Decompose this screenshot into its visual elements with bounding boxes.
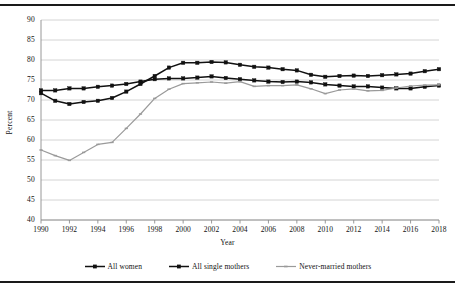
x-axis-title: Year [0, 238, 455, 247]
x-tick-label: 1992 [54, 225, 84, 234]
chart-legend: All womenAll single mothersNever-married… [0, 262, 455, 271]
x-tick-label: 2006 [253, 225, 283, 234]
x-tick-label: 2004 [225, 225, 255, 234]
x-tick-label: 1994 [83, 225, 113, 234]
x-axis-ticks [41, 220, 439, 224]
y-tick-label: 80 [13, 55, 35, 64]
gridlines [41, 20, 439, 220]
x-tick-label: 2008 [282, 225, 312, 234]
legend-swatch-icon [275, 262, 297, 271]
legend-label: All women [108, 262, 142, 271]
chart-figure: 4045505560657075808590 19901992199419961… [0, 0, 455, 288]
legend-item-0[interactable]: All women [84, 262, 142, 271]
y-tick-label: 55 [13, 155, 35, 164]
y-tick-label: 65 [13, 115, 35, 124]
x-tick-label: 2010 [310, 225, 340, 234]
legend-label: All single mothers [192, 262, 249, 271]
x-tick-label: 2000 [168, 225, 198, 234]
x-tick-label: 2012 [339, 225, 369, 234]
x-tick-label: 1998 [140, 225, 170, 234]
legend-item-1[interactable]: All single mothers [168, 262, 249, 271]
y-tick-label: 45 [13, 195, 35, 204]
legend-label: Never-married mothers [299, 262, 371, 271]
legend-item-2[interactable]: Never-married mothers [275, 262, 371, 271]
bottom-border-rule [0, 281, 455, 283]
x-tick-label: 2018 [424, 225, 454, 234]
plot-area-wrapper: 4045505560657075808590 19901992199419961… [0, 6, 455, 281]
series-0 [39, 75, 440, 92]
series-1 [39, 60, 440, 105]
series-2 [39, 81, 440, 161]
x-tick-label: 2002 [197, 225, 227, 234]
y-tick-label: 70 [13, 95, 35, 104]
y-tick-label: 50 [13, 175, 35, 184]
x-tick-label: 1990 [26, 225, 56, 234]
y-tick-label: 85 [13, 35, 35, 44]
data-series [39, 60, 440, 161]
x-tick-label: 1996 [111, 225, 141, 234]
y-tick-label: 75 [13, 75, 35, 84]
y-axis-title: Percent [5, 98, 14, 148]
x-tick-label: 2014 [367, 225, 397, 234]
y-tick-label: 90 [13, 15, 35, 24]
x-tick-label: 2016 [396, 225, 426, 234]
legend-swatch-icon [168, 262, 190, 271]
y-tick-label: 40 [13, 215, 35, 224]
y-tick-label: 60 [13, 135, 35, 144]
legend-swatch-icon [84, 262, 106, 271]
